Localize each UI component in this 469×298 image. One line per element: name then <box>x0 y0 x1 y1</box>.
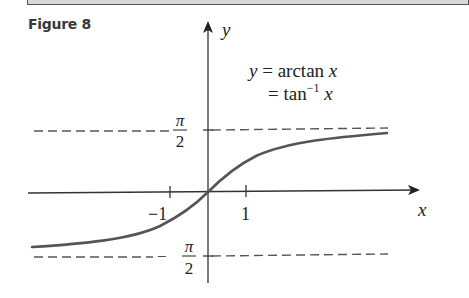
y-label-neg-pi-over-2: − π 2 <box>157 237 196 278</box>
equation-line-2: = tan−1 x <box>268 81 333 104</box>
x-tick-label-neg1: −1 <box>148 204 167 224</box>
equation-line-1: y = arctan x <box>247 60 338 81</box>
svg-text:2: 2 <box>176 132 185 151</box>
y-axis-label: y <box>220 19 231 40</box>
x-tick-label-1: 1 <box>241 204 250 224</box>
svg-text:π: π <box>185 237 194 256</box>
svg-text:−: − <box>157 247 167 266</box>
y-label-pi-over-2: π 2 <box>173 111 187 151</box>
svg-text:π: π <box>176 111 185 130</box>
x-axis <box>28 190 418 193</box>
x-axis-label: x <box>417 199 427 220</box>
svg-text:2: 2 <box>185 259 194 278</box>
